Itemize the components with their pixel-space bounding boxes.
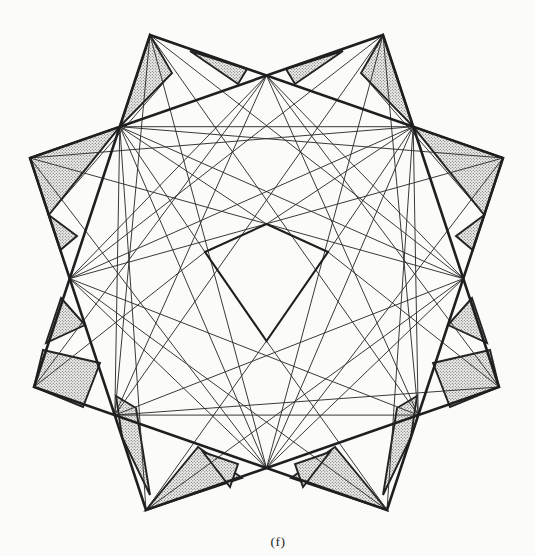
paper-background bbox=[0, 0, 535, 556]
figure-stage: (f) bbox=[0, 0, 535, 556]
figure-caption-label: (f) bbox=[271, 534, 286, 550]
star-polygon-figure bbox=[0, 0, 535, 556]
